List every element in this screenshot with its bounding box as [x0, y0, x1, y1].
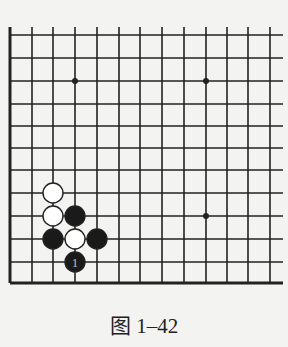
star-point [203, 78, 209, 84]
star-point [203, 213, 209, 219]
black-stone: 1 [65, 252, 85, 272]
white-stone [43, 183, 63, 203]
figure-caption: 图 1–42 [0, 309, 288, 339]
white-stone [43, 206, 63, 226]
move-number-label: 1 [72, 255, 79, 270]
black-stone [43, 229, 63, 249]
go-board: 1 [0, 0, 288, 300]
black-stone [87, 229, 107, 249]
black-stone [65, 206, 85, 226]
white-stone [65, 229, 85, 249]
star-point [72, 78, 78, 84]
